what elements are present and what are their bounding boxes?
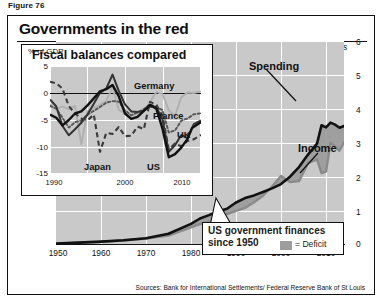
- spending-leader-line: [266, 69, 296, 101]
- sources-note: Sources: Bank for International Settleme…: [136, 284, 365, 291]
- y-tick-3: 3: [356, 139, 370, 149]
- inset-axis-note: % of GDP: [28, 47, 64, 56]
- inset-y-tick-0: 0: [26, 89, 48, 98]
- inset-x-tick-1990: 1990: [46, 178, 63, 187]
- y-tick-1: 1: [356, 207, 370, 217]
- series-label-japan: Japan: [84, 162, 111, 172]
- series-label-germany: Germany: [134, 81, 174, 91]
- figure-root: Figure 76 Governments in the red Trillio…: [0, 0, 382, 302]
- callout-line-2: since 1950: [208, 237, 259, 248]
- callout-line-1: US government finances: [208, 225, 325, 236]
- inset-x-tick-2010: 2010: [174, 178, 191, 187]
- x-tick-1980: 1980: [182, 248, 201, 258]
- inset-y-tick-m5: -5: [26, 116, 48, 125]
- inset-x-tick-2000: 2000: [117, 178, 134, 187]
- series-label-us: US: [147, 162, 160, 172]
- callout-box: US government finances since 1950 = Defi…: [202, 222, 344, 255]
- series-label-spending: Spending: [249, 60, 299, 72]
- deficit-legend-label: = Deficit: [295, 239, 326, 249]
- y-tick-0: 0: [356, 239, 370, 249]
- series-label-france: France: [153, 111, 184, 121]
- inset-y-tick-5: 5: [26, 62, 48, 71]
- page-title: Governments in the red: [19, 20, 189, 38]
- y-tick-2: 2: [356, 173, 370, 183]
- figure-caption: Figure 76: [8, 1, 44, 10]
- x-tick-1970: 1970: [137, 248, 156, 258]
- inset-panel: Fiscal balances compared %: [21, 44, 213, 196]
- x-tick-1950: 1950: [49, 248, 68, 258]
- inset-y-tick-m10: -10: [26, 143, 48, 152]
- y-tick-6: 6: [356, 37, 370, 47]
- us-line: [50, 85, 201, 157]
- inset-y-tick-m15: -15: [26, 169, 48, 178]
- series-label-income: Income: [298, 142, 337, 154]
- deficit-legend-swatch: [280, 241, 292, 250]
- y-tick-4: 4: [356, 105, 370, 115]
- y-tick-5: 5: [356, 71, 370, 81]
- series-label-uk: UK: [177, 130, 190, 140]
- x-tick-1960: 1960: [92, 248, 111, 258]
